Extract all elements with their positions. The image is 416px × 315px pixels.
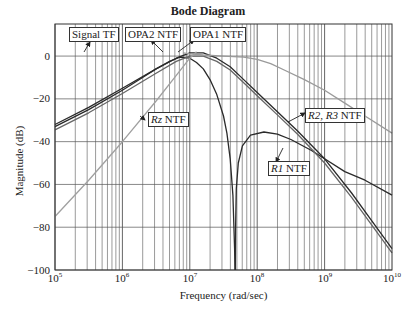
- xtick-1e10: 1010: [383, 272, 401, 284]
- curve-opa1-ntf: [55, 53, 392, 249]
- curve-opa2-ntf: [55, 57, 235, 270]
- xtick-1e6: 106: [115, 272, 130, 284]
- label-arrow: [288, 113, 305, 122]
- ytick-m60: −60: [33, 178, 50, 190]
- series-curves: [55, 52, 392, 270]
- label-rz-ntf: Rz NTF: [148, 112, 189, 127]
- label-arrow: [276, 148, 283, 162]
- bode-plot: [0, 0, 416, 315]
- label-r2-r3-ntf: R2, R3 NTF: [305, 108, 365, 123]
- y-axis-label: Magnitude (dB): [13, 106, 25, 216]
- label-opa2-ntf: OPA2 NTF: [125, 27, 181, 42]
- xtick-1e5: 105: [48, 272, 63, 284]
- xtick-1e8: 108: [250, 272, 265, 284]
- xtick-1e9: 109: [318, 272, 333, 284]
- curve-r1-ntf: [235, 132, 392, 270]
- label-opa1-ntf: OPA1 NTF: [190, 27, 246, 42]
- grid-lines: [55, 24, 392, 270]
- ytick-m20: −20: [33, 92, 50, 104]
- x-axis-label: Frequency (rad/sec): [55, 289, 392, 301]
- curve-r2-r3-ntf: [55, 56, 392, 253]
- ytick-m40: −40: [33, 135, 50, 147]
- plot-frame: [55, 24, 392, 270]
- curve-rz-ntf: [55, 52, 197, 217]
- label-arrows: [84, 40, 305, 162]
- ytick-m100: −100: [27, 264, 50, 276]
- xtick-1e7: 107: [183, 272, 198, 284]
- label-r1-ntf: R1 NTF: [268, 161, 310, 176]
- ytick-0: 0: [45, 50, 51, 62]
- label-signal-tf: Signal TF: [69, 27, 119, 42]
- ytick-m80: −80: [33, 221, 50, 233]
